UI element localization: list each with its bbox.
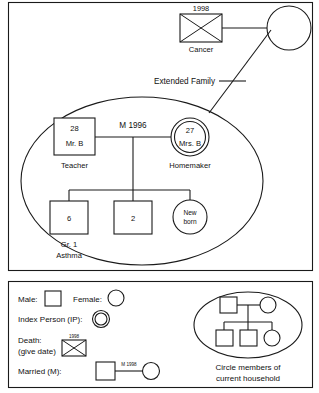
grandmother-female-circle xyxy=(267,6,311,50)
legend-index-person-label: Index Person (IP): xyxy=(18,315,82,324)
child-1-grade: Gr. 1 xyxy=(61,240,77,249)
legend-male-label: Male: xyxy=(18,295,38,304)
child-3-label-line1: New xyxy=(183,209,196,216)
marriage-label: M 1996 xyxy=(119,121,147,130)
genogram-page: 1998 Cancer Extended Family 28 Mr. B Tea… xyxy=(0,0,319,393)
legend-household-caption-line1: Circle members of xyxy=(216,363,282,372)
father-node: 28 Mr. B Teacher xyxy=(54,118,95,170)
genogram-canvas: 1998 Cancer Extended Family 28 Mr. B Tea… xyxy=(0,0,319,393)
child-1-age: 6 xyxy=(67,214,71,223)
mother-role: Homemaker xyxy=(169,161,211,170)
legend-household-caption-line2: current household xyxy=(216,374,280,383)
deceased-date: 1998 xyxy=(193,4,209,13)
child-3-node: New born xyxy=(173,200,207,234)
mother-age: 27 xyxy=(186,126,194,135)
child-3-female-circle xyxy=(173,200,207,234)
legend-household-father-square xyxy=(220,297,237,313)
father-age: 28 xyxy=(70,124,78,133)
deceased-cause: Cancer xyxy=(189,45,214,54)
legend-married-square xyxy=(96,362,115,380)
legend-death-label-line2: (give date) xyxy=(18,347,56,356)
deceased-node: 1998 Cancer xyxy=(180,4,222,54)
legend-female-label: Female: xyxy=(73,295,102,304)
legend-female-circle xyxy=(108,290,124,306)
legend-death-date: 1998 xyxy=(69,334,80,339)
legend-household-child-2-square xyxy=(240,330,257,346)
legend-household-example xyxy=(194,292,302,358)
father-name: Mr. B xyxy=(66,139,84,148)
mother-node: 27 Mrs. B Homemaker xyxy=(169,118,211,170)
legend-household-child-1-square xyxy=(216,330,233,346)
child-3-label-line2: born xyxy=(183,218,197,225)
legend-index-inner-circle xyxy=(95,313,107,325)
legend-married-circle xyxy=(143,363,160,380)
legend-married-date: M 1998 xyxy=(121,362,137,367)
legend-household-mother-circle xyxy=(260,297,276,313)
legend-married-label: Married (M): xyxy=(18,367,62,376)
child-1-condition: Asthma xyxy=(56,251,83,260)
legend-death-label-line1: Death: xyxy=(18,336,42,345)
child-2-age: 2 xyxy=(131,214,135,223)
legend-male-square xyxy=(45,291,61,306)
extended-family-label: Extended Family xyxy=(154,77,216,86)
child-2-node: 2 xyxy=(114,201,152,234)
father-role: Teacher xyxy=(61,161,88,170)
legend-household-child-3-circle xyxy=(264,330,280,346)
child-1-node: 6 Gr. 1 Asthma xyxy=(50,201,88,260)
mother-name: Mrs. B xyxy=(179,139,201,148)
